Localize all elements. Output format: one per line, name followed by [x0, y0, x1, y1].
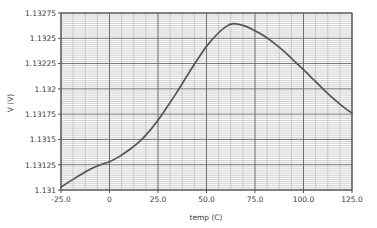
x-tick-label: 125.0 — [341, 195, 363, 204]
y-tick-label: 1.13275 — [25, 9, 56, 18]
y-tick-label: 1.13175 — [25, 110, 56, 119]
x-tick-label: -25.0 — [51, 195, 71, 204]
x-tick-label: 25.0 — [150, 195, 167, 204]
y-tick-label: 1.131 — [35, 186, 57, 195]
y-axis-title: V (V) — [6, 94, 15, 113]
x-tick-label: 50.0 — [198, 195, 215, 204]
y-tick-label: 1.1325 — [30, 34, 56, 43]
x-tick-label: 75.0 — [247, 195, 264, 204]
y-tick-label: 1.13225 — [25, 59, 56, 68]
x-tick-label: 100.0 — [293, 195, 315, 204]
y-tick-label: 1.13125 — [25, 161, 56, 170]
x-tick-label: 0 — [107, 195, 112, 204]
voltage-vs-temperature-chart: -25.0025.050.075.0100.0125.0 1.1311.1312… — [0, 0, 377, 228]
y-tick-label: 1.132 — [35, 85, 57, 94]
x-axis-title: temp (C) — [189, 213, 222, 222]
y-tick-label: 1.1315 — [30, 135, 56, 144]
chart-figure: -25.0025.050.075.0100.0125.0 1.1311.1312… — [0, 0, 377, 228]
